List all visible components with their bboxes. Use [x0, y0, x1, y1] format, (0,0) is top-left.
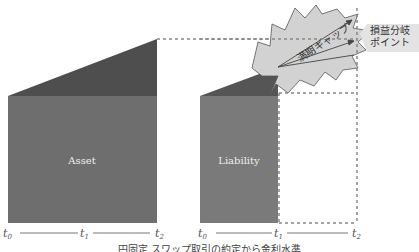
svg-text:t1: t1 — [274, 227, 283, 241]
svg-text:t0: t0 — [3, 227, 12, 241]
breakeven-line2: ポイント — [370, 37, 416, 49]
diagram-svg: 満期ギャップ Asset Liability t0 t1 t2 t0 t1 t2 — [0, 0, 419, 252]
svg-text:t2: t2 — [352, 227, 361, 241]
asset-block — [8, 39, 157, 223]
asset-label: Asset — [67, 155, 95, 166]
svg-text:t0: t0 — [198, 227, 207, 241]
breakeven-callout: 損益分岐 ポイント — [360, 23, 416, 51]
diagram-canvas: 満期ギャップ Asset Liability t0 t1 t2 t0 t1 t2… — [0, 0, 419, 252]
svg-text:t2: t2 — [155, 227, 164, 241]
right-time-axis: t0 t1 t2 — [198, 227, 361, 241]
breakeven-line1: 損益分岐 — [370, 25, 416, 37]
liability-block — [200, 67, 278, 223]
figure-caption: 円固定 スワップ取引の約定から金利水準 — [0, 241, 419, 252]
left-time-axis: t0 t1 t2 — [3, 227, 164, 241]
liability-label: Liability — [218, 155, 260, 166]
svg-text:t1: t1 — [80, 227, 89, 241]
